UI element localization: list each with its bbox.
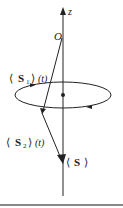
s-close-bracket: ⟩ (84, 156, 88, 168)
s-label: ⟨ S ⟩ (66, 156, 88, 168)
s-arrowhead (57, 154, 66, 164)
s1-arg: (t) (38, 73, 48, 85)
s1-symbol: S (18, 72, 24, 84)
s1-close-bracket: ⟩ (31, 72, 35, 84)
s2-symbol: S (15, 136, 21, 148)
s2-vector (42, 113, 62, 161)
s1-subscript: 1 (26, 78, 30, 86)
s1-arrowhead (40, 108, 46, 114)
z-axis-label: z (67, 6, 72, 17)
s2-open-bracket: ⟨ (6, 136, 10, 148)
s-open-bracket: ⟨ (66, 156, 70, 168)
s2-label: ⟨ S 2 ⟩ (t) (6, 136, 45, 150)
precession-diagram: z O ⟨ S 1 ⟩ (t) ⟨ S 2 ⟩ (t) ⟨ S ⟩ (0, 0, 123, 208)
s2-close-bracket: ⟩ (28, 136, 32, 148)
z-axis-arrowhead (60, 7, 66, 15)
s2-arg: (t) (35, 137, 45, 149)
s1-label: ⟨ S 1 ⟩ (t) (9, 72, 48, 86)
s1-open-bracket: ⟨ (9, 72, 13, 84)
ellipse-center-dot (61, 93, 65, 97)
s2-subscript: 2 (23, 142, 27, 150)
origin-label: O (54, 30, 62, 42)
s-symbol: S (74, 156, 80, 168)
